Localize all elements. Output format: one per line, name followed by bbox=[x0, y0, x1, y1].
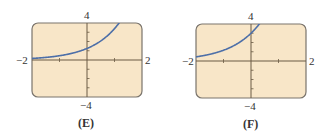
x-min-label: −2 bbox=[16, 55, 28, 66]
y-min-label: −4 bbox=[244, 101, 256, 112]
graph-caption: (E) bbox=[78, 117, 94, 129]
graph-panel-e: −2 2 4 −4 (E) bbox=[0, 0, 165, 137]
graph-caption: (F) bbox=[243, 118, 258, 130]
y-min-label: −4 bbox=[80, 100, 92, 111]
x-max-label: 2 bbox=[145, 55, 151, 66]
y-max-label: 4 bbox=[248, 11, 254, 22]
x-max-label: 2 bbox=[309, 56, 315, 67]
x-min-label: −2 bbox=[182, 56, 194, 67]
y-max-label: 4 bbox=[84, 10, 90, 21]
graph-panel-f: −2 2 4 −4 (F) bbox=[165, 0, 329, 137]
